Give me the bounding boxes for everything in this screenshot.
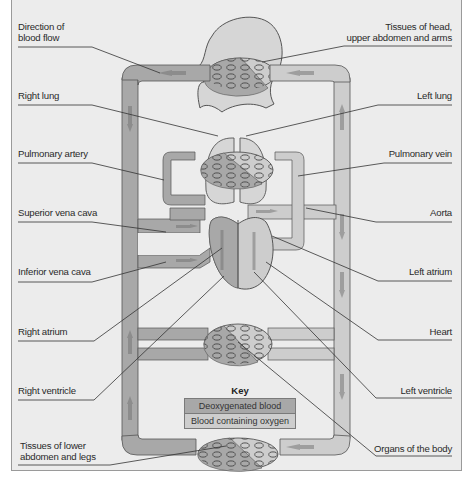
organs-capillary-icon xyxy=(204,324,272,366)
label-left-atrium: Left atrium xyxy=(409,267,452,278)
label-aorta: Aorta xyxy=(430,208,452,219)
legend-title: Key xyxy=(184,385,296,396)
lungs-icon xyxy=(201,138,273,204)
label-right-ventricle: Right ventricle xyxy=(18,386,76,397)
label-heart: Heart xyxy=(430,327,452,338)
label-tissues-lower: Tissues of lower abdomen and legs xyxy=(20,441,96,462)
label-left-ventricle: Left ventricle xyxy=(400,386,452,397)
head-icon xyxy=(198,17,282,112)
label-pulmonary-artery: Pulmonary artery xyxy=(18,149,88,160)
label-superior-vena-cava: Superior vena cava xyxy=(18,208,97,219)
label-inferior-vena-cava: Inferior vena cava xyxy=(18,267,91,278)
label-tissues-head: Tissues of head, upper abdomen and arms xyxy=(347,22,452,43)
legend-item-oxygenated: Blood containing oxygen xyxy=(184,414,296,429)
legend: Key Deoxygenated blood Blood containing … xyxy=(184,385,296,429)
label-organs-of-the-body: Organs of the body xyxy=(374,444,452,455)
heart-icon xyxy=(209,217,273,289)
legend-item-deoxygenated: Deoxygenated blood xyxy=(184,398,296,414)
label-right-lung: Right lung xyxy=(18,91,59,102)
label-right-atrium: Right atrium xyxy=(18,327,67,338)
label-left-lung: Left lung xyxy=(417,91,452,102)
lower-tissues-capillary-icon xyxy=(198,438,278,471)
label-pulmonary-vein: Pulmonary vein xyxy=(389,149,452,160)
label-direction-of-blood-flow: Direction of blood flow xyxy=(18,22,64,43)
